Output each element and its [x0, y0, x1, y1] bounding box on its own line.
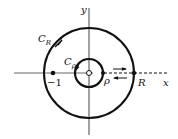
c-rho-label: Cρ: [64, 56, 77, 70]
contour-diagram: y x CR Cρ −1 ρ R: [0, 0, 178, 139]
arrow-left-head-icon: [113, 76, 118, 79]
c-r-label: CR: [38, 33, 52, 47]
arrow-c-rho-head-icon: [76, 65, 80, 71]
x-axis-label: x: [163, 77, 169, 88]
arrow-right-head-icon: [122, 67, 127, 70]
origin-hollow-point: [87, 71, 92, 76]
minus-one-label: −1: [47, 77, 62, 88]
r-label: R: [137, 77, 146, 88]
point-minus-one: [51, 71, 56, 76]
y-axis-label: y: [80, 4, 87, 15]
point-r: [132, 71, 136, 75]
rho-label: ρ: [103, 75, 110, 86]
